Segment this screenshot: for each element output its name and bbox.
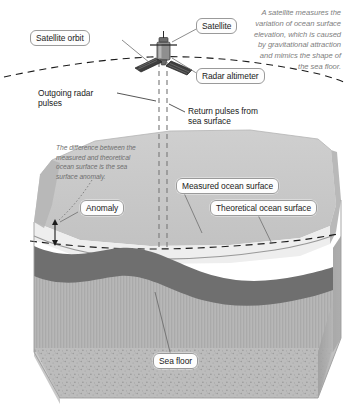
leader-return-pulses xyxy=(169,104,185,112)
label-theoretical-ocean-surface[interactable]: Theoretical ocean surface xyxy=(210,200,317,216)
label-measured-ocean-surface[interactable]: Measured ocean surface xyxy=(176,178,279,194)
label-satellite-orbit[interactable]: Satellite orbit xyxy=(30,30,90,46)
leader-outgoing-pulses xyxy=(117,93,156,101)
label-anomaly[interactable]: Anomaly xyxy=(80,200,124,216)
label-outgoing-radar-pulses[interactable]: Outgoing radar pulses xyxy=(38,88,93,109)
diagram-caption: A satellite measures the variation of oc… xyxy=(215,8,341,73)
label-satellite[interactable]: Satellite xyxy=(196,18,237,34)
label-sea-floor[interactable]: Sea floor xyxy=(153,353,198,369)
label-radar-altimeter[interactable]: Radar altimeter xyxy=(196,68,265,84)
diagram-canvas: A satellite measures the variation of oc… xyxy=(0,0,347,420)
solar-panel-left-icon xyxy=(135,58,162,72)
label-return-pulses[interactable]: Return pulses from sea surface xyxy=(188,106,258,127)
leader-satellite-orbit xyxy=(122,40,150,63)
anomaly-note: The difference between the measured and … xyxy=(56,143,152,181)
